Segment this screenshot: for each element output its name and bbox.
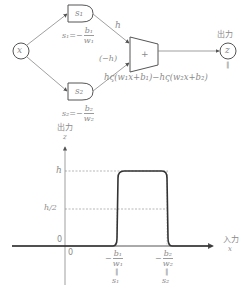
x-tick-s1-var: s₁ xyxy=(112,277,119,285)
x-tick-s2-den: w₂ xyxy=(163,259,173,268)
output-node-label: z xyxy=(225,46,230,55)
diagram-canvas xyxy=(0,0,247,298)
x-tick-zero: 0 xyxy=(68,249,73,257)
s2-formula-den: w₂ xyxy=(84,114,94,123)
s1-formula-num: b₁ xyxy=(84,26,94,36)
x-tick-s2-fraction: − b₂w₂ xyxy=(155,249,173,268)
x-axis-caption: 入力 xyxy=(223,236,239,244)
x-tick-s2-equals: ∥ xyxy=(165,269,169,276)
weight-h: h xyxy=(115,21,121,30)
x-tick-s1-den: w₁ xyxy=(113,259,123,268)
s1-formula: s₁=− b₁w₁ xyxy=(62,26,94,45)
step1-label: s₁ xyxy=(75,9,83,18)
y-tick-h: h xyxy=(56,166,62,175)
output-caption: 出力 xyxy=(217,31,233,39)
edge-s1-sum xyxy=(93,14,129,43)
input-node-label: x xyxy=(17,46,22,55)
y-tick-half-h: h/2 xyxy=(44,204,57,212)
x-axis-var: x xyxy=(228,246,232,253)
s1-formula-den: w₁ xyxy=(84,36,94,45)
output-curve xyxy=(12,171,212,246)
x-tick-s1-num: b₁ xyxy=(113,249,123,259)
x-tick-s2-sign: − xyxy=(155,254,162,263)
s1-formula-lhs: s₁=− xyxy=(62,31,83,40)
step2-label: s₂ xyxy=(75,87,83,96)
weight-minus-h: (−h) xyxy=(99,55,117,63)
output-equals: ∥ xyxy=(226,62,230,69)
sum-label: + xyxy=(141,50,149,59)
y-tick-zero: 0 xyxy=(57,236,62,244)
x-tick-s1-equals: ∥ xyxy=(115,269,119,276)
s2-formula-num: b₂ xyxy=(84,104,94,114)
y-axis-var: z xyxy=(63,134,67,141)
edge-x-s1 xyxy=(27,14,67,45)
s2-formula: s₂=− b₂w₂ xyxy=(62,104,94,123)
x-tick-s1-fraction: − b₁w₁ xyxy=(105,249,123,268)
s2-formula-lhs: s₂=− xyxy=(62,109,83,118)
output-expression: hς(w₁x+b₁)−hς(w₂x+b₂) xyxy=(104,73,208,82)
edge-x-s2 xyxy=(27,57,67,91)
x-tick-s1-sign: − xyxy=(105,254,112,263)
x-tick-s2-num: b₂ xyxy=(163,249,173,259)
x-tick-s2-var: s₂ xyxy=(162,277,169,285)
y-axis-caption: 出力 xyxy=(57,124,73,132)
